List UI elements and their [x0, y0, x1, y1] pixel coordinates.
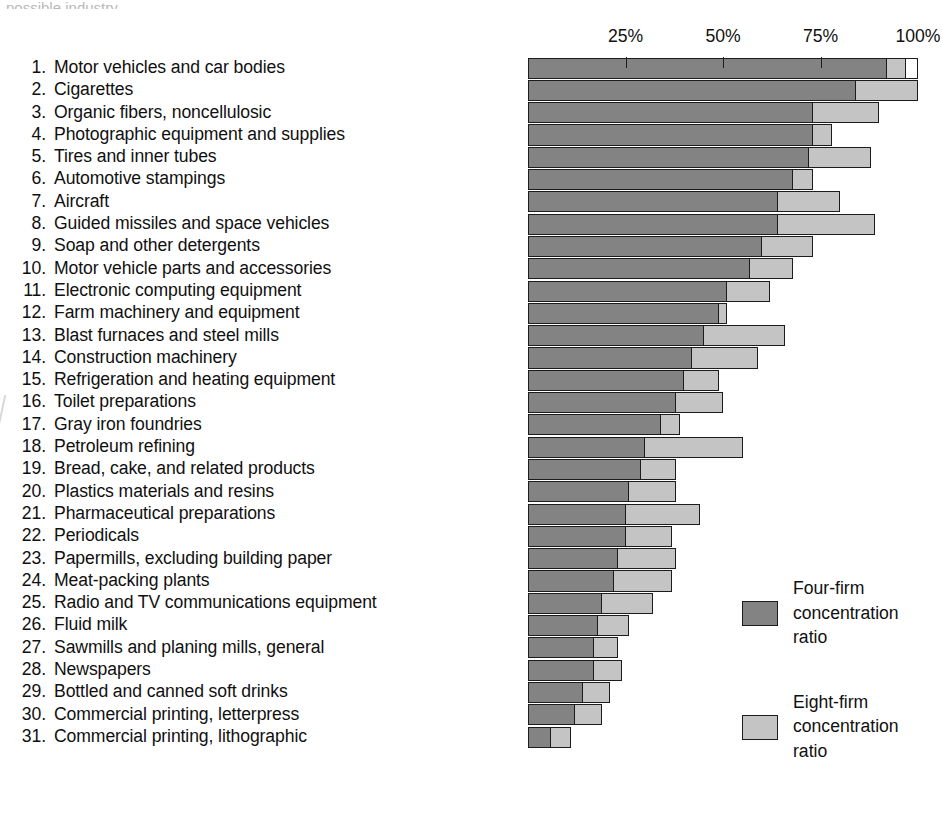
- bar-row: [528, 79, 918, 101]
- bar-four-firm: [528, 281, 727, 302]
- bar-row: [528, 414, 918, 436]
- industry-label-row: 1.Motor vehicles and car bodies: [0, 56, 520, 78]
- axis-tick-mark: [821, 57, 822, 68]
- industry-name: Meat-packing plants: [54, 569, 210, 591]
- industry-label-list: 1.Motor vehicles and car bodies2.Cigaret…: [0, 56, 520, 747]
- bar-four-firm: [528, 325, 704, 346]
- industry-rank-number: 8.: [0, 212, 54, 234]
- bar-four-firm: [528, 236, 762, 257]
- bar-row: [528, 280, 918, 302]
- industry-name: Motor vehicles and car bodies: [54, 56, 285, 78]
- industry-rank-number: 3.: [0, 101, 54, 123]
- bar-four-firm: [528, 459, 641, 480]
- industry-name: Newspapers: [54, 658, 151, 680]
- industry-name: Periodicals: [54, 524, 139, 546]
- cropped-header-text: possible industry: [6, 0, 306, 9]
- industry-name: Petroleum refining: [54, 435, 195, 457]
- industry-name: Photographic equipment and supplies: [54, 123, 345, 145]
- bar-row: [528, 168, 918, 190]
- industry-label-row: 9.Soap and other detergents: [0, 234, 520, 256]
- industry-rank-number: 23.: [0, 547, 54, 569]
- industry-rank-number: 20.: [0, 480, 54, 502]
- industry-label-row: 30.Commercial printing, letterpress: [0, 703, 520, 725]
- industry-name: Automotive stampings: [54, 167, 225, 189]
- industry-rank-number: 4.: [0, 123, 54, 145]
- bar-four-firm: [528, 414, 661, 435]
- industry-label-row: 17.Gray iron foundries: [0, 413, 520, 435]
- axis-tick-label: 25%: [608, 26, 643, 47]
- industry-label-row: 14.Construction machinery: [0, 346, 520, 368]
- industry-name: Cigarettes: [54, 78, 133, 100]
- bar-four-firm: [528, 504, 626, 525]
- industry-name: Guided missiles and space vehicles: [54, 212, 329, 234]
- industry-rank-number: 7.: [0, 190, 54, 212]
- legend-entry-eight-firm: Eight-firm concentration ratio: [742, 690, 942, 764]
- industry-rank-number: 5.: [0, 145, 54, 167]
- bar-four-firm: [528, 370, 684, 391]
- industry-label-row: 31.Commercial printing, lithographic: [0, 725, 520, 747]
- legend-swatch-eight-firm: [742, 715, 778, 740]
- industry-label-row: 5.Tires and inner tubes: [0, 145, 520, 167]
- x-axis-tick-labels: 25%50%75%100%: [528, 26, 943, 52]
- industry-name: Aircraft: [54, 190, 109, 212]
- bar-four-firm: [528, 58, 887, 79]
- bar-row: [528, 436, 918, 458]
- industry-label-row: 2.Cigarettes: [0, 78, 520, 100]
- bar-four-firm: [528, 682, 583, 703]
- industry-name: Bread, cake, and related products: [54, 457, 315, 479]
- bar-four-firm: [528, 169, 793, 190]
- bar-row: [528, 213, 918, 235]
- legend-swatch-four-firm: [742, 601, 778, 626]
- bar-four-firm: [528, 392, 676, 413]
- axis-tick-label: 100%: [896, 26, 941, 47]
- industry-name: Gray iron foundries: [54, 413, 202, 435]
- bar-row: [528, 525, 918, 547]
- industry-name: Motor vehicle parts and accessories: [54, 257, 331, 279]
- industry-label-row: 10.Motor vehicle parts and accessories: [0, 257, 520, 279]
- industry-label-row: 18.Petroleum refining: [0, 435, 520, 457]
- industry-rank-number: 29.: [0, 680, 54, 702]
- bar-row: [528, 102, 918, 124]
- industry-name: Plastics materials and resins: [54, 480, 274, 502]
- industry-name: Refrigeration and heating equipment: [54, 368, 335, 390]
- industry-label-row: 7.Aircraft: [0, 190, 520, 212]
- industry-name: Fluid milk: [54, 613, 127, 635]
- bar-row: [528, 458, 918, 480]
- industry-label-row: 16.Toilet preparations: [0, 390, 520, 412]
- bar-four-firm: [528, 481, 629, 502]
- industry-name: Soap and other detergents: [54, 234, 260, 256]
- industry-name: Toilet preparations: [54, 390, 196, 412]
- industry-rank-number: 31.: [0, 725, 54, 747]
- bar-four-firm: [528, 191, 778, 212]
- industry-name: Radio and TV communications equipment: [54, 591, 377, 613]
- bar-four-firm: [528, 80, 856, 101]
- industry-rank-number: 28.: [0, 658, 54, 680]
- bar-four-firm: [528, 303, 719, 324]
- legend-label-four-firm: Four-firm concentration ratio: [793, 576, 942, 650]
- industry-rank-number: 12.: [0, 301, 54, 323]
- industry-rank-number: 13.: [0, 324, 54, 346]
- axis-tick-label: 50%: [705, 26, 740, 47]
- industry-label-row: 26.Fluid milk: [0, 613, 520, 635]
- industry-label-row: 3.Organic fibers, noncellulosic: [0, 101, 520, 123]
- bar-row: [528, 503, 918, 525]
- bar-row: [528, 191, 918, 213]
- bar-four-firm: [528, 347, 692, 368]
- chart-legend: Four-firm concentration ratioEight-firm …: [742, 576, 942, 803]
- industry-label-row: 22.Periodicals: [0, 524, 520, 546]
- industry-rank-number: 9.: [0, 234, 54, 256]
- industry-label-row: 24.Meat-packing plants: [0, 569, 520, 591]
- industry-name: Organic fibers, noncellulosic: [54, 101, 271, 123]
- industry-rank-number: 24.: [0, 569, 54, 591]
- bar-row: [528, 302, 918, 324]
- industry-rank-number: 1.: [0, 56, 54, 78]
- industry-label-row: 19.Bread, cake, and related products: [0, 457, 520, 479]
- bar-row: [528, 57, 918, 79]
- industry-name: Sawmills and planing mills, general: [54, 636, 324, 658]
- industry-rank-number: 17.: [0, 413, 54, 435]
- industry-label-row: 20.Plastics materials and resins: [0, 480, 520, 502]
- industry-name: Commercial printing, lithographic: [54, 725, 307, 747]
- industry-rank-number: 21.: [0, 502, 54, 524]
- industry-label-row: 12.Farm machinery and equipment: [0, 301, 520, 323]
- bar-row: [528, 258, 918, 280]
